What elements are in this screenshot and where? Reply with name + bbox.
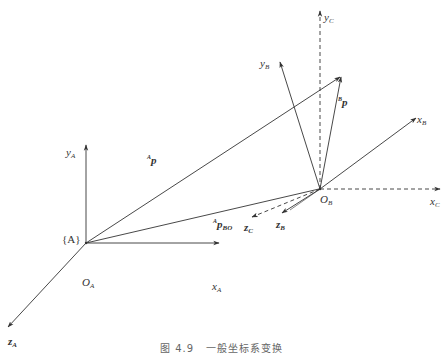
axis-zC xyxy=(252,189,320,217)
label-Ap: Ap xyxy=(147,154,157,166)
label-ApBO: ApBO xyxy=(213,218,232,232)
axis-xB xyxy=(320,118,416,189)
label-yB: yB xyxy=(260,58,269,71)
label-Bp: Bp xyxy=(338,96,348,108)
axis-zA xyxy=(8,243,86,327)
caption-number: 图 4.9 xyxy=(160,343,194,354)
origin-OB-dot xyxy=(319,188,321,190)
origin-OA-dot xyxy=(85,242,87,244)
label-zC: zC xyxy=(244,222,253,235)
label-xA: xA xyxy=(212,281,221,294)
axis-yB xyxy=(280,62,320,189)
figure-caption: 图 4.9一般坐标系变换 xyxy=(0,340,443,355)
label-zB: zB xyxy=(276,219,285,232)
axis-zB xyxy=(282,189,320,213)
vector-ApBO xyxy=(86,189,319,243)
label-yA: yA xyxy=(66,147,75,160)
caption-text: 一般坐标系变换 xyxy=(206,343,283,354)
coordinate-transform-diagram xyxy=(0,0,443,359)
vector-Bp xyxy=(320,77,341,189)
label-xC: xC xyxy=(430,196,440,209)
label-OB: OB xyxy=(320,194,332,207)
label-xB: xB xyxy=(417,114,426,127)
label-OA: OA xyxy=(82,277,94,290)
label-frame-A: {A} xyxy=(62,234,81,245)
label-yC: yC xyxy=(324,12,334,25)
